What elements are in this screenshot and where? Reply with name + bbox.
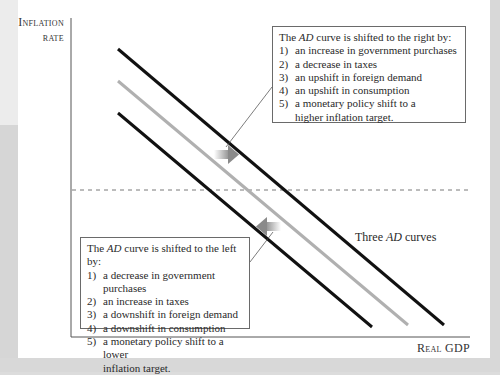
right-box-intro: The AD curve is shifted to the right by: [279, 31, 459, 44]
left-box-intro: The AD curve is shifted to the left by: [87, 242, 243, 269]
left-shift-explanation-box: The AD curve is shifted to the left by: … [80, 237, 250, 329]
list-item: 2)a decrease in taxes [279, 58, 459, 71]
list-item: 1)a decrease in government purchases [87, 269, 243, 296]
list-item: 2)an increase in taxes [87, 295, 243, 308]
three-ad-curves-label: Three AD curves [355, 230, 436, 245]
list-item: 3)a downshift in foreign demand [87, 308, 243, 321]
right-box-leader-line [226, 87, 272, 147]
list-item: 3)an upshift in foreign demand [279, 71, 459, 84]
right-shift-explanation-box: The AD curve is shifted to the right by:… [272, 26, 466, 123]
list-item: 4)an upshift in consumption [279, 84, 459, 97]
list-item: 5)a monetary policy shift to a [279, 97, 459, 110]
list-item: 5)a monetary policy shift to a lower [87, 335, 243, 362]
left-box-leader-line [250, 232, 273, 262]
list-item-continuation: inflation target. [87, 362, 243, 375]
y-axis-label: Inflation rate [12, 15, 64, 45]
list-item: 4)a downshift in consumption [87, 322, 243, 335]
list-item: 1)an increase in government purchases [279, 44, 459, 57]
y-axis-label-line2: rate [12, 30, 64, 45]
y-axis-label-line1: Inflation [12, 15, 64, 30]
list-item-continuation: higher inflation target. [279, 111, 459, 124]
x-axis-label: Real GDP [400, 341, 470, 356]
